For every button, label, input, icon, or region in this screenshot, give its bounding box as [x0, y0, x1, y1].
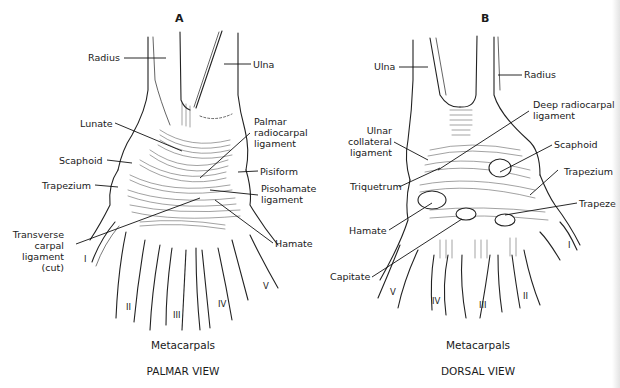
- metacarpal-numeral: I: [568, 240, 571, 250]
- label-hamate: Hamate: [275, 238, 313, 249]
- metacarpals-caption: Metacarpals: [103, 339, 263, 351]
- label-pisiform: Pisiform: [260, 166, 298, 177]
- panel-letter-b: B: [481, 12, 489, 25]
- label-line: ligament: [261, 194, 316, 205]
- metacarpals-caption: Metacarpals: [398, 339, 558, 351]
- label-line: radiocarpal: [254, 127, 308, 138]
- label-scaphoid: Scaphoid: [554, 139, 598, 150]
- label-line: Ulnar: [334, 125, 392, 136]
- label-ulnar-collateral-ligament: Ulnar collateral ligament: [334, 125, 392, 158]
- metacarpal-numeral: V: [390, 287, 396, 297]
- label-trapezium: Trapezium: [42, 180, 91, 191]
- label-capitate: Capitate: [330, 271, 370, 282]
- metacarpal-numeral: III: [173, 310, 181, 320]
- metacarpal-numeral: I: [84, 254, 87, 264]
- label-line: ligament: [334, 147, 392, 158]
- label-pisohamate-ligament: Pisohamate ligament: [261, 183, 316, 205]
- metacarpal-numeral: II: [126, 302, 131, 312]
- label-transverse-carpal-ligament: Transverse carpal ligament (cut): [8, 229, 64, 273]
- metacarpal-numeral: III: [479, 300, 487, 310]
- label-line: carpal: [8, 240, 64, 251]
- label-line: ligament: [8, 251, 64, 262]
- label-ulna: Ulna: [374, 61, 395, 72]
- label-scaphoid: Scaphoid: [59, 155, 103, 166]
- label-trapezoid: Trapeze: [579, 198, 616, 209]
- label-ulna: Ulna: [253, 59, 274, 70]
- label-lunate: Lunate: [80, 118, 113, 129]
- label-line: ligament: [254, 138, 308, 149]
- label-line: Pisohamate: [261, 183, 316, 194]
- label-hamate: Hamate: [349, 225, 387, 236]
- metacarpal-numeral: V: [263, 281, 269, 291]
- label-deep-radiocarpal-ligament: Deep radiocarpal ligament: [533, 99, 615, 121]
- label-line: collateral: [334, 136, 392, 147]
- label-palmar-radiocarpal-ligament: Palmar radiocarpal ligament: [254, 116, 308, 149]
- palmar-view-title: PALMAR VIEW: [103, 365, 263, 377]
- label-trapezium: Trapezium: [564, 166, 613, 177]
- label-radius: Radius: [88, 52, 120, 63]
- label-line: Deep radiocarpal: [533, 99, 615, 110]
- metacarpal-numeral: IV: [432, 296, 440, 306]
- label-line: Transverse: [8, 229, 64, 240]
- label-triquetrum: Triquetrum: [350, 181, 402, 192]
- metacarpal-numeral: II: [523, 291, 528, 301]
- panel-letter-a: A: [175, 12, 184, 25]
- page-edge-shadow: [612, 0, 620, 388]
- dorsal-view-title: DORSAL VIEW: [398, 365, 558, 377]
- label-line: (cut): [8, 262, 64, 273]
- label-line: ligament: [533, 110, 615, 121]
- metacarpal-numeral: IV: [218, 299, 226, 309]
- label-radius: Radius: [524, 69, 556, 80]
- label-line: Palmar: [254, 116, 308, 127]
